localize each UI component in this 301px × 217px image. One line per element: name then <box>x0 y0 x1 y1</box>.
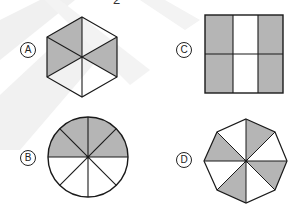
fraction-question-figure: 2 A C B D <box>0 0 301 217</box>
option-d-octagon[interactable] <box>0 0 301 217</box>
